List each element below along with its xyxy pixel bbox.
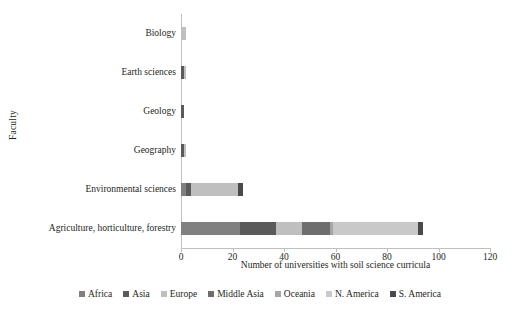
legend-item[interactable]: Middle Asia	[208, 289, 264, 299]
bar-segment[interactable]	[240, 222, 276, 235]
legend-item[interactable]: S. America	[390, 289, 441, 299]
legend-item[interactable]: Europe	[161, 289, 197, 299]
category-label: Earth sciences	[121, 53, 181, 92]
plot-area: BiologyEarth sciencesGeologyGeographyEnv…	[181, 14, 490, 248]
stacked-bar[interactable]	[181, 144, 186, 157]
bar-row: Geology	[181, 92, 490, 131]
stacked-bar-chart: Faculty BiologyEarth sciencesGeologyGeog…	[0, 0, 520, 319]
bar-segment[interactable]	[181, 222, 240, 235]
bar-segment[interactable]	[184, 66, 187, 79]
category-label: Geography	[134, 131, 181, 170]
legend-item[interactable]: Oceania	[275, 289, 315, 299]
legend-item[interactable]: Africa	[79, 289, 112, 299]
legend-swatch-icon	[326, 291, 332, 297]
bar-row: Agriculture, horticulture, forestry	[181, 209, 490, 248]
bar-segment[interactable]	[276, 222, 302, 235]
legend-swatch-icon	[123, 291, 129, 297]
bar-segment[interactable]	[302, 222, 330, 235]
legend-label: S. America	[399, 289, 441, 299]
legend-swatch-icon	[275, 291, 281, 297]
category-label: Agriculture, horticulture, forestry	[49, 209, 181, 248]
stacked-bar[interactable]	[181, 222, 423, 235]
category-label: Geology	[143, 92, 181, 131]
category-label: Environmental sciences	[86, 170, 181, 209]
bar-segment[interactable]	[238, 183, 243, 196]
stacked-bar[interactable]	[181, 27, 186, 40]
y-axis-title: Faculty	[2, 0, 24, 250]
bar-segment[interactable]	[181, 27, 186, 40]
bar-row: Geography	[181, 131, 490, 170]
y-axis-title-label: Faculty	[8, 110, 18, 140]
category-label: Biology	[145, 14, 181, 53]
legend-label: N. America	[335, 289, 379, 299]
x-axis-title: Number of universities with soil science…	[181, 260, 490, 270]
stacked-bar[interactable]	[181, 183, 243, 196]
bar-segment[interactable]	[333, 222, 418, 235]
stacked-bar[interactable]	[181, 105, 184, 118]
bar-row: Biology	[181, 14, 490, 53]
legend-item[interactable]: Asia	[123, 289, 149, 299]
bar-segment[interactable]	[181, 105, 184, 118]
stacked-bar[interactable]	[181, 66, 186, 79]
chart-legend: AfricaAsiaEuropeMiddle AsiaOceaniaN. Ame…	[0, 289, 520, 299]
bar-row: Earth sciences	[181, 53, 490, 92]
legend-label: Africa	[88, 289, 112, 299]
legend-swatch-icon	[79, 291, 85, 297]
legend-label: Oceania	[284, 289, 315, 299]
legend-label: Europe	[170, 289, 197, 299]
legend-label: Asia	[132, 289, 149, 299]
legend-swatch-icon	[208, 291, 214, 297]
bar-row: Environmental sciences	[181, 170, 490, 209]
bar-segment[interactable]	[418, 222, 423, 235]
bar-segment[interactable]	[191, 183, 237, 196]
bar-segment[interactable]	[184, 144, 187, 157]
legend-swatch-icon	[390, 291, 396, 297]
legend-item[interactable]: N. America	[326, 289, 379, 299]
legend-label: Middle Asia	[217, 289, 264, 299]
legend-swatch-icon	[161, 291, 167, 297]
